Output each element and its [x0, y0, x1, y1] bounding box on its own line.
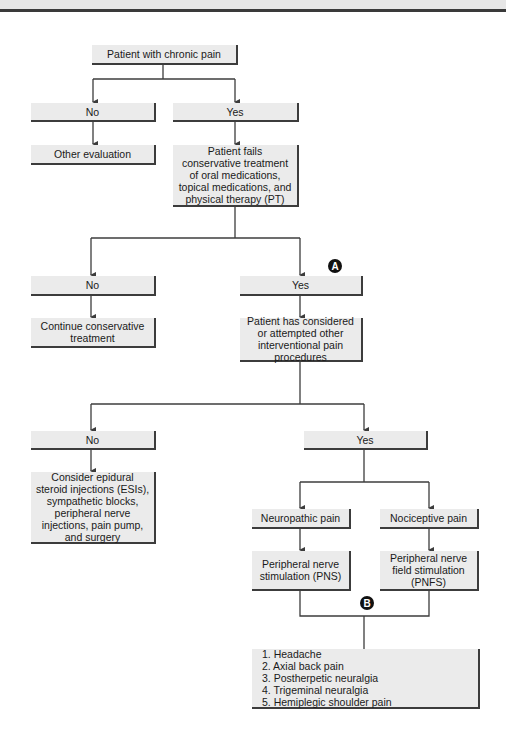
pnfs-label: Peripheral nerve field stimulation (PNFS… — [384, 552, 473, 588]
nociceptive-pain-label: Nociceptive pain — [390, 512, 467, 524]
decision-yes-3: Yes — [304, 431, 428, 450]
continue-conservative-box: Continue conservative treatment — [31, 318, 156, 348]
pns-box: Peripheral nerve stimulation (PNS) — [252, 551, 351, 591]
neuropathic-pain-label: Neuropathic pain — [261, 512, 340, 524]
considered-procedures-label: Patient has considered or attempted othe… — [244, 315, 357, 363]
consider-esis-label: Consider epidural steroid injections (ES… — [35, 471, 150, 543]
decision-no-3: No — [31, 431, 156, 450]
pnfs-box: Peripheral nerve field stimulation (PNFS… — [380, 551, 479, 591]
decision-no-2: No — [31, 276, 156, 296]
indication-item: 4. Trigeminal neuralgia — [262, 684, 392, 696]
nociceptive-pain-box: Nociceptive pain — [380, 509, 479, 529]
indications-list: 1. Headache 2. Axial back pain 3. Posthe… — [262, 648, 392, 708]
indication-item: 5. Hemiplegic shoulder pain — [262, 696, 392, 708]
indication-item: 3. Postherpetic neuralgia — [262, 672, 392, 684]
other-evaluation-box: Other evaluation — [31, 145, 156, 165]
fails-conservative-box: Patient fails conservative treatment of … — [173, 145, 299, 207]
considered-procedures-box: Patient has considered or attempted othe… — [240, 318, 363, 362]
marker-a-label: A — [331, 261, 338, 272]
marker-b: B — [360, 596, 374, 610]
consider-esis-box: Consider epidural steroid injections (ES… — [31, 472, 156, 544]
indication-item: 2. Axial back pain — [262, 660, 392, 672]
start-label: Patient with chronic pain — [107, 48, 221, 60]
decision-yes-3-label: Yes — [356, 434, 373, 446]
marker-a: A — [328, 259, 342, 273]
other-evaluation-label: Other evaluation — [54, 148, 131, 160]
decision-no-3-label: No — [86, 434, 99, 446]
continue-conservative-label: Continue conservative treatment — [35, 320, 150, 344]
decision-yes-1-label: Yes — [226, 106, 243, 118]
decision-no-1: No — [31, 103, 156, 122]
decision-yes-2-label: Yes — [292, 279, 309, 291]
marker-b-label: B — [363, 598, 370, 609]
decision-no-2-label: No — [86, 279, 99, 291]
pns-label: Peripheral nerve stimulation (PNS) — [256, 558, 345, 582]
decision-no-1-label: No — [86, 106, 99, 118]
neuropathic-pain-box: Neuropathic pain — [252, 509, 351, 529]
indication-item: 1. Headache — [262, 648, 392, 660]
start-box: Patient with chronic pain — [92, 45, 238, 65]
fails-conservative-label: Patient fails conservative treatment of … — [177, 145, 293, 205]
decision-yes-2: Yes — [240, 276, 363, 296]
indications-box: 1. Headache 2. Axial back pain 3. Posthe… — [252, 649, 480, 709]
decision-yes-1: Yes — [173, 103, 299, 122]
